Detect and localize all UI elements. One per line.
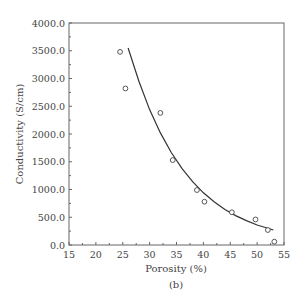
x-tick-label: 50 — [251, 249, 263, 260]
data-point — [272, 239, 277, 244]
data-point — [158, 111, 163, 116]
data-point — [170, 158, 175, 163]
y-axis-label: Conductivity (S/cm) — [14, 84, 25, 185]
x-axis-label: Porosity (%) — [145, 263, 207, 274]
data-point — [202, 199, 207, 204]
y-tick-label: 2000.0 — [32, 129, 65, 140]
data-point — [265, 228, 270, 233]
x-tick-label: 15 — [63, 249, 75, 260]
x-tick-label: 40 — [197, 249, 209, 260]
y-tick-label: 3000.0 — [32, 73, 65, 84]
y-tick-label: 1500.0 — [32, 156, 65, 167]
x-tick-label: 30 — [144, 249, 156, 260]
x-tick-label: 25 — [117, 249, 129, 260]
x-tick-label: 20 — [90, 249, 102, 260]
data-point — [229, 210, 234, 215]
y-tick-label: 0.0 — [50, 240, 65, 251]
y-tick-label: 1000.0 — [32, 184, 65, 195]
data-point — [118, 49, 123, 54]
plot-area: 1520253035404550550.0500.01000.01500.020… — [32, 18, 290, 261]
y-tick-label: 3500.0 — [32, 45, 65, 56]
y-tick-label: 500.0 — [38, 212, 65, 223]
y-tick-label: 4000.0 — [32, 18, 65, 29]
scatter-chart: 1520253035404550550.0500.01000.01500.020… — [0, 0, 304, 304]
data-point — [123, 86, 128, 91]
y-tick-label: 2500.0 — [32, 101, 65, 112]
figure-caption: (b) — [169, 279, 183, 290]
x-tick-label: 55 — [278, 249, 290, 260]
data-point — [253, 217, 258, 222]
fit-curve — [128, 48, 273, 230]
data-point — [195, 188, 200, 193]
x-tick-label: 35 — [170, 249, 182, 260]
plot-frame — [69, 23, 284, 245]
x-tick-label: 45 — [224, 249, 236, 260]
